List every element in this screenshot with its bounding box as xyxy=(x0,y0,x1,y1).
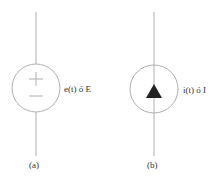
caption-a: (a) xyxy=(29,160,39,170)
voltage-source-label: e(t) ó E xyxy=(64,84,91,94)
voltage-source xyxy=(12,12,60,156)
current-source-label: i(t) ó I xyxy=(183,85,206,95)
current-source xyxy=(130,12,178,156)
caption-b: (b) xyxy=(147,160,158,170)
